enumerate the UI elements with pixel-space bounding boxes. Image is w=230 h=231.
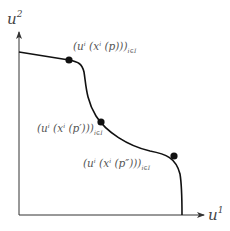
label-p-prime: (ui (xi (p′)))i∈I — [37, 122, 103, 136]
y-axis-label: u2 — [7, 9, 23, 28]
utility-frontier-diagram: u2 u1 (ui (xi (p)))i∈I (ui (xi (p′)))i∈I… — [0, 0, 230, 231]
x-axis-label: u1 — [208, 205, 223, 224]
point-p — [65, 56, 72, 63]
label-p: (ui (xi (p)))i∈I — [73, 40, 137, 54]
point-p-double-prime — [170, 152, 177, 159]
point-p-prime — [97, 118, 104, 125]
label-p-double-prime: (ui (xi (p″)))i∈I — [83, 157, 151, 171]
